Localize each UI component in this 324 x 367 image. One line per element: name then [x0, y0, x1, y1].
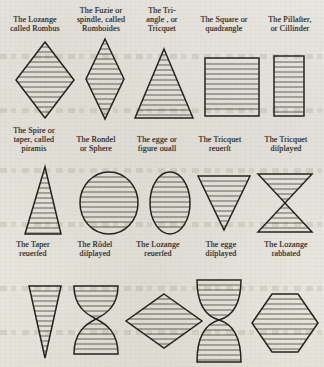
figure-row-3: The Taper reuerſed The Rôdel diſplayed T…	[0, 240, 324, 364]
figure-egg-displayed	[193, 278, 245, 364]
row-1-figures	[0, 38, 324, 120]
heraldic-figures-plate: The Lozange called Rombus The Fuzie or s…	[0, 0, 324, 367]
figure-roundel	[78, 170, 140, 236]
figure-triangle-reversed	[196, 174, 252, 232]
figure-fusil	[84, 38, 126, 120]
caption-roundel-displayed: The Rôdel diſplayed	[64, 240, 126, 258]
row-1-captions: The Lozange called Rombus The Fuzie or s…	[0, 4, 324, 34]
figure-lozenge-rabbated	[250, 292, 320, 354]
row-2-captions: The Spire or taper, called piramis The R…	[0, 126, 324, 156]
caption-taper-reversed: The Taper reuerſed	[2, 240, 64, 258]
caption-roundel: The Rondel or Sphere	[68, 135, 124, 153]
row-3-captions: The Taper reuerſed The Rôdel diſplayed T…	[0, 240, 324, 270]
figure-row-1: The Lozange called Rombus The Fuzie or s…	[0, 4, 324, 120]
figure-row-2: The Spire or taper, called piramis The R…	[0, 126, 324, 236]
row-3-figures	[0, 268, 324, 364]
caption-lozenge-reversed: The Lozange reuerſed	[126, 240, 190, 258]
caption-triangle-reversed: The Tricquet reuerſt	[190, 135, 250, 153]
caption-pillaster: The Pillaſter, or Cillinder	[258, 15, 322, 33]
figure-taper-reversed	[25, 284, 65, 360]
caption-spire: The Spire or taper, called piramis	[2, 126, 66, 154]
figure-triangle-displayed	[256, 172, 314, 234]
figure-square	[203, 56, 261, 118]
caption-egg-displayed: The egge diſplayed	[190, 240, 252, 258]
caption-lozenge-rabbated: The Lozange rabbated	[252, 240, 320, 258]
figure-pillaster	[272, 54, 306, 118]
figure-roundel-displayed	[70, 284, 122, 356]
row-2-figures	[0, 164, 324, 236]
figure-lozenge-reversed	[124, 292, 204, 350]
figure-lozenge	[14, 40, 76, 120]
caption-fusil: The Fuzie or spindle, called Romboides	[68, 6, 134, 34]
figure-triangle	[133, 48, 195, 120]
caption-triangle-displayed: The Tricquet diſplayed	[252, 135, 320, 153]
caption-egg: The egge or figure ouall	[126, 135, 188, 153]
caption-triangle: The Tri- angle , or Tricquet	[138, 6, 186, 34]
caption-lozenge: The Lozange called Rombus	[2, 15, 68, 33]
caption-square: The Square or quadrangle	[190, 15, 258, 33]
figure-egg	[148, 170, 192, 236]
figure-spire	[21, 166, 65, 236]
